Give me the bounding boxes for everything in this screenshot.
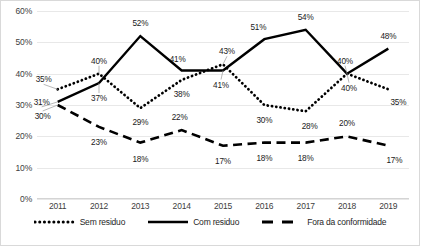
data-label: 41% xyxy=(170,54,186,63)
data-label: 35% xyxy=(36,75,52,84)
y-axis-tick-label: 20% xyxy=(16,131,32,141)
y-axis-tick-label: 30% xyxy=(16,100,32,110)
label-leader-line xyxy=(44,84,58,89)
x-axis-tick-label: 2019 xyxy=(379,201,397,211)
series-lines xyxy=(37,11,409,199)
data-label: 40% xyxy=(91,56,107,65)
legend-item-sem-residuo[interactable]: Sem residuo xyxy=(34,217,126,227)
legend-item-com-residuo[interactable]: Com residuo xyxy=(147,217,239,227)
x-axis-tick-label: 2011 xyxy=(49,201,66,211)
chart-container: 0%10%20%30%40%50%60% 2011201220132014201… xyxy=(0,0,420,246)
legend-item-fora-da-conformidade[interactable]: Fora da conformidade xyxy=(261,217,386,227)
data-label: 37% xyxy=(91,94,107,103)
legend-swatch-solid xyxy=(147,217,189,227)
data-label: 51% xyxy=(250,23,266,32)
label-leader-line xyxy=(221,71,223,80)
legend-label: Fora da conformidade xyxy=(307,217,386,227)
y-axis-tick-label: 50% xyxy=(16,37,32,47)
data-label: 54% xyxy=(298,12,314,21)
data-label: 28% xyxy=(302,122,318,131)
y-axis-tick-label: 40% xyxy=(16,69,32,79)
x-axis-tick-label: 2014 xyxy=(173,201,191,211)
data-label: 23% xyxy=(91,137,107,146)
data-label: 31% xyxy=(34,97,50,106)
data-label: 40% xyxy=(337,56,353,65)
legend-swatch-dotted xyxy=(34,217,76,227)
data-label: 18% xyxy=(298,153,314,162)
legend-label: Sem residuo xyxy=(80,217,126,227)
y-axis-tick-label: 10% xyxy=(16,163,32,173)
legend-swatch-dashed xyxy=(261,217,303,227)
y-axis-tick-label: 60% xyxy=(16,6,32,16)
data-label: 17% xyxy=(215,156,231,165)
y-axis-tick-label: 0% xyxy=(20,194,32,204)
data-label: 30% xyxy=(256,116,272,125)
data-label: 29% xyxy=(132,118,148,127)
data-label: 20% xyxy=(339,119,355,128)
data-label: 41% xyxy=(213,80,229,89)
data-label: 30% xyxy=(35,112,51,121)
data-label: 18% xyxy=(132,154,148,163)
label-leader-line xyxy=(223,56,227,64)
data-label: 40% xyxy=(341,83,357,92)
data-label: 22% xyxy=(172,113,188,122)
legend-label: Com residuo xyxy=(193,217,239,227)
data-label: 43% xyxy=(219,47,235,56)
x-axis-tick-label: 2017 xyxy=(297,201,315,211)
x-axis-tick-label: 2012 xyxy=(90,201,108,211)
x-axis-tick-label: 2015 xyxy=(214,201,232,211)
data-label: 48% xyxy=(380,31,396,40)
x-axis-tick-label: 2018 xyxy=(338,201,356,211)
data-label: 17% xyxy=(386,155,402,164)
data-label: 35% xyxy=(390,98,406,107)
gridline xyxy=(37,199,409,200)
chart-legend: Sem residuoCom residuoFora da conformida… xyxy=(1,217,419,227)
data-label: 52% xyxy=(132,19,148,28)
data-label: 18% xyxy=(256,153,272,162)
x-axis-tick-label: 2013 xyxy=(131,201,149,211)
plot-area: 0%10%20%30%40%50%60% 2011201220132014201… xyxy=(37,11,409,199)
data-label: 38% xyxy=(174,89,190,98)
x-axis-tick-label: 2016 xyxy=(255,201,273,211)
